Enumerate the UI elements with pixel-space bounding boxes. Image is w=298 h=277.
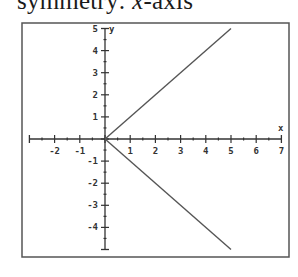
x-tick-label: 3 xyxy=(178,146,183,156)
y-tick-label: -1 xyxy=(87,156,98,166)
upper-branch-line xyxy=(105,29,231,140)
y-tick-label: -2 xyxy=(87,178,98,188)
x-tick-label: 4 xyxy=(203,146,209,156)
y-tick-label: 1 xyxy=(93,112,98,122)
x-tick-label: 7 xyxy=(279,146,284,156)
x-axis-label: x xyxy=(278,123,284,133)
x-tick-label: 6 xyxy=(253,146,258,156)
x-tick-label: 1 xyxy=(127,146,132,156)
x-tick-label: -2 xyxy=(49,146,60,156)
tick-labels: -2-1123456754321-1-2-3-4 xyxy=(49,24,284,233)
y-tick-label: 4 xyxy=(93,46,99,56)
x-tick-label: 5 xyxy=(228,146,233,156)
x-tick-label: 2 xyxy=(153,146,158,156)
graph-chart: -2-1123456754321-1-2-3-4 x y xyxy=(0,0,298,277)
y-axis-label: y xyxy=(109,24,115,34)
lower-branch-line xyxy=(105,139,231,250)
y-tick-label: 5 xyxy=(93,24,98,34)
y-tick-label: -4 xyxy=(87,222,98,232)
y-tick-label: 3 xyxy=(93,68,98,78)
y-tick-label: -3 xyxy=(87,200,98,210)
y-tick-label: 2 xyxy=(93,90,98,100)
x-tick-label: -1 xyxy=(74,146,85,156)
